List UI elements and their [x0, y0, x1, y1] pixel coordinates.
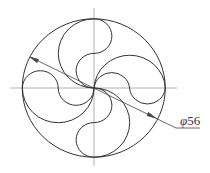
- technical-drawing: [0, 0, 210, 173]
- diameter-label: φ56: [180, 114, 200, 127]
- diameter-dimension: [30, 57, 200, 128]
- centerlines: [10, 8, 177, 166]
- arrowhead-upper-left: [30, 57, 39, 63]
- petal-right: [94, 55, 165, 104]
- petal-left: [22, 71, 94, 123]
- petal-top: [58, 19, 112, 88]
- diameter-value: 56: [187, 113, 200, 128]
- arrowhead-lower-right: [147, 112, 156, 118]
- petal-bottom: [76, 88, 130, 157]
